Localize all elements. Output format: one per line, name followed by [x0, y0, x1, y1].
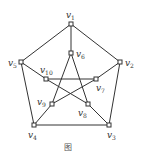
label-v3: v3 — [107, 130, 116, 141]
label-v4: v4 — [28, 130, 37, 141]
edge-v8-v10 — [46, 79, 88, 104]
node-v9 — [50, 102, 54, 106]
node-v1 — [69, 22, 73, 26]
node-v10 — [44, 77, 48, 81]
label-v2: v2 — [125, 58, 134, 69]
label-v7: v7 — [96, 83, 105, 94]
label-v10: v10 — [40, 65, 53, 76]
edge-v7-v9 — [52, 79, 96, 104]
label-v6: v6 — [76, 49, 85, 60]
node-v3 — [107, 123, 111, 127]
node-v8 — [86, 102, 90, 106]
graph-edges — [21, 24, 120, 125]
label-v9: v9 — [37, 97, 46, 108]
label-v1: v1 — [66, 10, 75, 21]
node-v7 — [94, 77, 98, 81]
petersen-graph-diagram: v1v2v3v4v5v6v7v8v9v10 图 — [0, 0, 142, 151]
edge-v3-v8 — [88, 104, 109, 125]
label-v8: v8 — [78, 108, 87, 119]
figure-caption-fragment: 图 — [64, 143, 72, 151]
edge-v4-v5 — [21, 62, 34, 125]
node-v5 — [19, 60, 23, 64]
node-v6 — [69, 51, 73, 55]
label-v5: v5 — [8, 58, 17, 69]
edge-v2-v3 — [109, 62, 120, 125]
node-v2 — [118, 60, 122, 64]
edge-v5-v1 — [21, 24, 71, 62]
node-v4 — [32, 123, 36, 127]
edge-v2-v7 — [96, 62, 120, 79]
